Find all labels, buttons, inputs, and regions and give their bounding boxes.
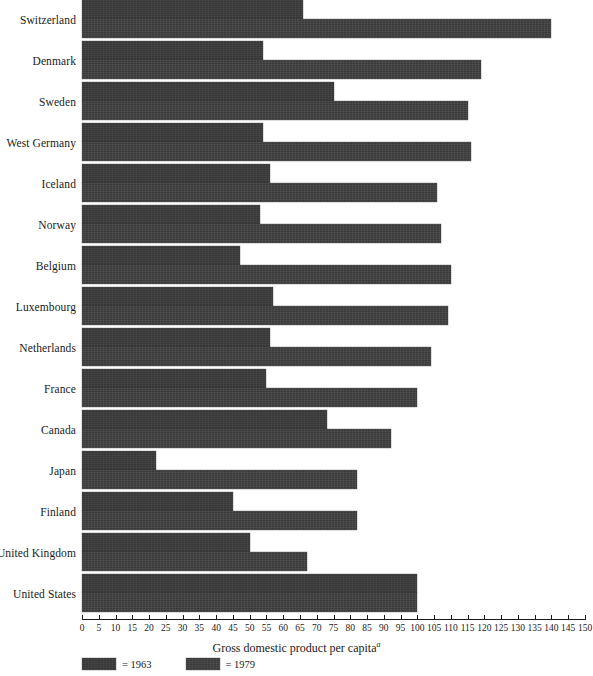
bar-1979 (82, 470, 357, 489)
x-axis-tick-label: 150 (578, 623, 592, 633)
bar-1963 (82, 369, 266, 388)
x-axis-tick (99, 615, 100, 620)
bar-1979 (82, 19, 551, 38)
x-axis-tick (166, 615, 167, 620)
category-label: France (0, 369, 76, 409)
x-axis-tick-label: 5 (96, 623, 101, 633)
x-axis-tick (585, 615, 586, 620)
x-axis-tick (82, 615, 83, 620)
x-axis-tick (551, 615, 552, 620)
x-axis-tick (518, 615, 519, 620)
x-axis-tick (149, 615, 150, 620)
x-axis-tick-label: 105 (427, 623, 441, 633)
chart-row: France (0, 369, 593, 409)
x-axis-tick-label: 125 (494, 623, 508, 633)
x-axis-tick (250, 615, 251, 620)
category-label: Canada (0, 410, 76, 450)
legend-item-1979: = 1979 (186, 658, 256, 670)
x-axis-tick-label: 45 (228, 623, 238, 633)
x-axis-tick-label: 30 (178, 623, 188, 633)
x-axis-tick-label: 100 (410, 623, 424, 633)
x-axis-tick (367, 615, 368, 620)
chart-row: Netherlands (0, 328, 593, 368)
x-axis-tick (199, 615, 200, 620)
bar-1963 (82, 246, 240, 265)
x-axis-tick (501, 615, 502, 620)
chart-row: West Germany (0, 123, 593, 163)
x-axis-tick-label: 90 (379, 623, 389, 633)
x-axis-tick-label: 20 (144, 623, 154, 633)
bar-1963 (82, 287, 273, 306)
bar-pair (82, 492, 593, 532)
x-axis-tick-label: 80 (346, 623, 356, 633)
x-axis-tick-label: 10 (111, 623, 121, 633)
chart-row: Sweden (0, 82, 593, 122)
chart-row: Finland (0, 492, 593, 532)
bar-1979 (82, 101, 468, 120)
bar-pair (82, 205, 593, 245)
x-axis-tick (233, 615, 234, 620)
x-axis-tick-label: 55 (262, 623, 272, 633)
x-axis-tick-label: 95 (396, 623, 406, 633)
category-label: Iceland (0, 164, 76, 204)
bar-1979 (82, 388, 417, 407)
x-axis-tick (183, 615, 184, 620)
bar-1979 (82, 306, 448, 325)
x-axis-tick-label: 60 (278, 623, 288, 633)
bar-1963 (82, 41, 263, 60)
x-axis-tick (334, 615, 335, 620)
bar-pair (82, 410, 593, 450)
category-label: Finland (0, 492, 76, 532)
x-axis-tick (451, 615, 452, 620)
bar-1979 (82, 224, 441, 243)
x-axis-tick-label: 50 (245, 623, 255, 633)
bar-pair (82, 369, 593, 409)
category-label: Belgium (0, 246, 76, 286)
x-axis-title-footnote-marker: a (376, 640, 380, 649)
gdp-per-capita-bar-chart: SwitzerlandDenmarkSwedenWest GermanyIcel… (0, 0, 593, 676)
bar-1963 (82, 574, 417, 593)
chart-row: Japan (0, 451, 593, 491)
bar-1979 (82, 347, 431, 366)
bar-pair (82, 0, 593, 40)
x-axis-tick-label: 65 (295, 623, 305, 633)
bar-1963 (82, 164, 270, 183)
x-axis-tick-label: 140 (544, 623, 558, 633)
chart-row: Norway (0, 205, 593, 245)
category-label: Sweden (0, 82, 76, 122)
x-axis-tick (484, 615, 485, 620)
category-label: Norway (0, 205, 76, 245)
bar-pair (82, 451, 593, 491)
category-label: United Kingdom (0, 533, 76, 573)
x-axis-tick (300, 615, 301, 620)
x-axis-tick (132, 615, 133, 620)
chart-row: United States (0, 574, 593, 614)
x-axis: 0510152025303540455055606570758085909510… (82, 619, 585, 620)
category-label: Switzerland (0, 0, 76, 40)
x-axis-tick-label: 35 (195, 623, 205, 633)
x-axis-tick (216, 615, 217, 620)
bar-1963 (82, 533, 250, 552)
legend-label-1963: = 1963 (122, 659, 152, 670)
x-axis-tick-label: 135 (528, 623, 542, 633)
chart-row: United Kingdom (0, 533, 593, 573)
category-label: United States (0, 574, 76, 614)
category-label: Japan (0, 451, 76, 491)
chart-row: Luxembourg (0, 287, 593, 327)
bar-1963 (82, 205, 260, 224)
x-axis-tick-label: 25 (161, 623, 171, 633)
bar-1979 (82, 511, 357, 530)
bar-1979 (82, 183, 437, 202)
bar-1979 (82, 593, 417, 612)
chart-row: Iceland (0, 164, 593, 204)
x-axis-tick-label: 85 (362, 623, 372, 633)
x-axis-tick (350, 615, 351, 620)
x-axis-tick (116, 615, 117, 620)
bar-1963 (82, 410, 327, 429)
x-axis-tick (417, 615, 418, 620)
x-axis-title: Gross domestic product per capitaa (0, 640, 593, 656)
bar-pair (82, 328, 593, 368)
bar-1963 (82, 82, 334, 101)
bar-1979 (82, 552, 307, 571)
bar-1963 (82, 0, 303, 19)
